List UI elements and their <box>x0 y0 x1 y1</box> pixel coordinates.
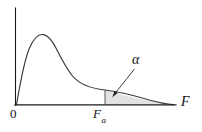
critical-value-label: Fa <box>93 107 105 124</box>
x-axis-label: F <box>181 95 190 109</box>
axes-group <box>15 8 176 105</box>
critical-value-subscript: a <box>101 115 106 125</box>
alpha-label: α <box>132 53 139 67</box>
density-curve-group <box>17 35 174 105</box>
f-density-curve <box>17 35 174 105</box>
origin-label: 0 <box>10 107 17 120</box>
critical-value-letter: F <box>93 106 101 121</box>
alpha-leader-line <box>115 69 135 94</box>
f-distribution-figure: 0 Fa F α <box>0 0 202 132</box>
